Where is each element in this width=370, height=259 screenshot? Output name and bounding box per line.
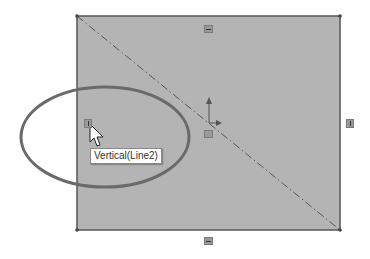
relation-tooltip: Vertical(Line2) [90,148,162,164]
midpoint-relation-icon[interactable] [204,130,213,138]
corner-point[interactable] [338,14,342,18]
vertical-relation-icon[interactable] [346,119,354,128]
horizontal-relation-icon[interactable] [204,25,213,33]
sketch-graphics [0,0,370,259]
sketch-canvas[interactable]: Vertical(Line2) [0,0,370,259]
corner-point[interactable] [75,228,79,232]
horizontal-relation-icon[interactable] [204,237,213,245]
vertical-relation-icon[interactable] [84,119,92,128]
